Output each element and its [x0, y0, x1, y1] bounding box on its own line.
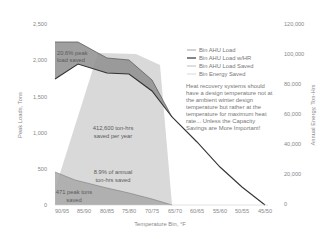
y2-tick: 20,000 [284, 171, 301, 177]
annotation-energy-saved: 412,600 ton-hrs [93, 125, 134, 131]
note-line: rate... Unless the Capacity [186, 118, 255, 124]
x-tick: 60/65 [190, 208, 204, 214]
y-tick: 500 [38, 166, 47, 172]
x-tick: 85/90 [77, 208, 91, 214]
x-ticks: 90/95 85/90 80/85 75/80 70/75 65/70 60/6… [55, 208, 272, 214]
y-left-axis-title: Peak Loads, Tons [17, 92, 23, 138]
y-right-axis-title: Annual Energy, Ton-Hrs [310, 84, 316, 145]
x-tick: 45/50 [258, 208, 272, 214]
y2-tick: 100,000 [284, 51, 304, 57]
y2-tick: 80,000 [284, 81, 301, 87]
x-tick: 80/85 [100, 208, 114, 214]
legend-label: Bin AHU Load [199, 47, 235, 53]
y-tick: 2,000 [33, 57, 47, 63]
y2-tick: 120,000 [284, 21, 304, 27]
annotation-peak-tons: 471 peak tons [56, 189, 93, 195]
annotation-peak-load: 20.6% peak [57, 50, 88, 56]
x-axis-title: Temperature Bin, °F [134, 221, 186, 227]
note-line: the ambient winter design [186, 97, 253, 103]
annotation-peak-load: load saved [57, 57, 85, 63]
x-tick: 55/60 [213, 208, 227, 214]
note-line: temperature but rather at the [186, 104, 262, 110]
y-right-ticks: 120,000 100,000 80,000 60,000 40,000 20,… [284, 21, 304, 207]
y-tick: 1,500 [33, 94, 47, 100]
annotation-energy-saved: saved per year [94, 133, 132, 139]
y2-tick: 40,000 [284, 141, 301, 147]
x-tick: 50/55 [235, 208, 249, 214]
y-tick: 0 [44, 202, 47, 208]
legend-label: Bin AHU Load w/HR [199, 55, 251, 61]
x-tick: 90/95 [55, 208, 69, 214]
x-tick: 65/70 [168, 208, 182, 214]
y-tick: 1,000 [33, 130, 47, 136]
legend-label: Bin AHU Load Saved [199, 63, 253, 69]
y-left-ticks: 2,500 2,000 1,500 1,000 500 0 [33, 21, 47, 208]
chart-container: 2,500 2,000 1,500 1,000 500 0 120,000 10… [0, 0, 330, 239]
note-text: Heat recovery systems should have a desi… [186, 83, 273, 131]
y2-tick: 60,000 [284, 111, 301, 117]
y2-tick: 0 [284, 201, 287, 207]
x-tick: 70/75 [145, 208, 159, 214]
legend: Bin AHU Load Bin AHU Load w/HR Bin AHU L… [187, 47, 253, 77]
chart-svg: 2,500 2,000 1,500 1,000 500 0 120,000 10… [0, 0, 330, 239]
note-line: have a design temperature not at [186, 90, 273, 96]
legend-label: Bin Energy Saved [199, 71, 245, 77]
note-line: Savings are More Important! [186, 125, 261, 131]
annotation-annual-pct: ton-hrs saved [95, 177, 130, 183]
annotation-annual-pct: 8.9% of annual [94, 169, 133, 175]
x-tick: 75/80 [122, 208, 136, 214]
y-tick: 2,500 [33, 21, 47, 27]
annotation-peak-tons: saved [66, 197, 81, 203]
note-line: Heat recovery systems should [186, 83, 265, 89]
note-line: temperature for maximum heat [186, 111, 267, 117]
